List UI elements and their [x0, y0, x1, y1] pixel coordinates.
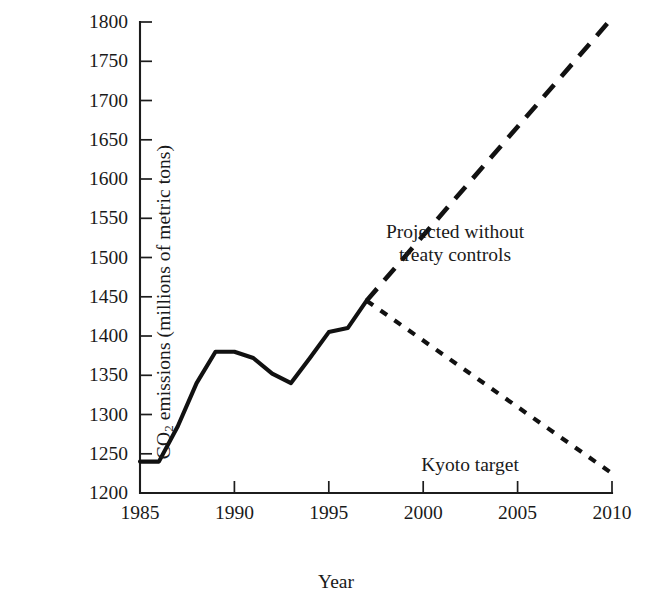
y-axis-title: CO2 emissions (millions of metric tons)	[153, 145, 178, 459]
ytick-label: 1550	[62, 209, 128, 229]
x-axis-title: Year	[0, 571, 672, 593]
xtick-label: 1985	[121, 503, 160, 523]
chart-figure: 1800 1750 1700 1650 1600 1550 1500 1450 …	[0, 0, 672, 604]
x-axis-ticks	[140, 481, 612, 493]
ytick-label: 1250	[62, 444, 128, 464]
ytick-label: 1300	[62, 405, 128, 425]
ytick-label: 1450	[62, 287, 128, 307]
xtick-label: 2000	[404, 503, 443, 523]
y-axis-title-prefix: CO	[153, 432, 174, 459]
y-axis-title-suffix: emissions (millions of metric tons)	[153, 145, 174, 425]
y-axis-title-subscript: 2	[161, 425, 176, 432]
series-kyoto-line	[367, 301, 612, 474]
ytick-label: 1400	[62, 326, 128, 346]
projected-label: Projected without treaty controls	[386, 220, 524, 266]
projected-label-line1: Projected without	[386, 220, 524, 243]
xtick-label: 1995	[309, 503, 348, 523]
ytick-label: 1650	[62, 130, 128, 150]
ytick-label: 1200	[62, 483, 128, 503]
ytick-label: 1750	[62, 52, 128, 72]
y-axis-ticks	[140, 22, 152, 493]
kyoto-label: Kyoto target	[421, 453, 519, 476]
ytick-label: 1600	[62, 169, 128, 189]
ytick-label: 1800	[62, 12, 128, 32]
xtick-label: 2010	[593, 503, 632, 523]
ytick-label: 1700	[62, 91, 128, 111]
axis-spines	[140, 22, 612, 493]
xtick-label: 2005	[498, 503, 537, 523]
projected-label-line2: treaty controls	[386, 243, 524, 266]
xtick-label: 1990	[215, 503, 254, 523]
ytick-label: 1500	[62, 248, 128, 268]
ytick-label: 1350	[62, 366, 128, 386]
